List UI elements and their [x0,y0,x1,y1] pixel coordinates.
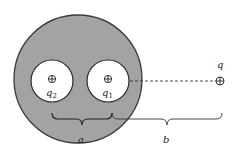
plus-charge-icon [104,75,111,82]
cavity-q1: q1 [87,60,129,102]
charge-diagram: q2 q1 q [0,0,236,155]
plus-charge-icon [216,77,224,85]
label-b: b [163,134,169,145]
label-a: a [78,134,84,145]
external-charge-q: q [216,59,224,85]
diagram-canvas: q2 q1 q [0,0,236,155]
plus-charge-icon [48,75,55,82]
label-q: q [217,59,223,70]
cavity-q2: q2 [31,60,73,102]
